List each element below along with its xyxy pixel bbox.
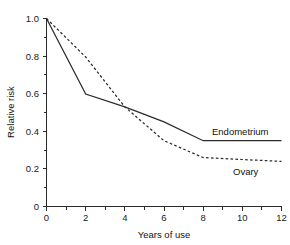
x-tick-label-0: 0: [44, 212, 49, 223]
series-label-endometrium: Endometrium: [212, 126, 269, 137]
relative-risk-line-chart: 0 0.2 0.4 0.6 0.8 1.0 0 2 4 6 8 10 12 Ye…: [0, 0, 290, 245]
series-label-ovary: Ovary: [233, 166, 259, 177]
y-tick-label-0p4: 0.4: [26, 126, 39, 137]
x-axis-title: Years of use: [138, 229, 190, 240]
y-tick-label-0p6: 0.6: [26, 88, 39, 99]
x-tick-label-4: 4: [122, 212, 127, 223]
x-tick-label-12: 12: [276, 212, 287, 223]
x-tick-label-6: 6: [161, 212, 166, 223]
y-tick-label-0: 0: [34, 201, 39, 212]
y-axis-tick-labels: 0 0.2 0.4 0.6 0.8 1.0: [26, 13, 39, 212]
series-line-endometrium: [47, 19, 282, 141]
x-axis-tick-labels: 0 2 4 6 8 10 12: [44, 212, 287, 223]
series-line-ovary: [47, 19, 282, 162]
y-tick-label-0p8: 0.8: [26, 51, 39, 62]
y-axis-title: Relative risk: [5, 86, 16, 138]
chart-canvas: 0 0.2 0.4 0.6 0.8 1.0 0 2 4 6 8 10 12 Ye…: [0, 0, 290, 245]
y-tick-label-0p2: 0.2: [26, 163, 39, 174]
x-tick-label-10: 10: [237, 212, 248, 223]
x-tick-label-8: 8: [201, 212, 206, 223]
x-axis-major-ticks: [47, 207, 282, 211]
y-tick-label-1p0: 1.0: [26, 13, 39, 24]
x-tick-label-2: 2: [83, 212, 88, 223]
